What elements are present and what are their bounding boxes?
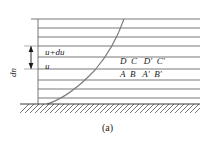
point-label-B: B — [130, 70, 136, 79]
element-points-lower-row: A B A' B' — [120, 70, 162, 79]
velocity-upper-label: u+du — [45, 48, 65, 57]
point-label-C: C — [131, 57, 137, 66]
figure-container: dn u+du u D C D' C' A B A' B' (a) — [0, 0, 215, 142]
velocity-profile-diagram — [0, 0, 215, 142]
point-label-B-prime: B' — [154, 70, 161, 79]
point-label-D: D — [120, 57, 127, 66]
fluid-layer-lines — [31, 19, 200, 98]
point-label-C-prime: C' — [157, 57, 165, 66]
dn-thickness-label: dn — [9, 68, 18, 77]
point-label-A: A — [120, 70, 126, 79]
element-points-upper-row: D C D' C' — [120, 57, 165, 66]
point-label-A-prime: A' — [142, 70, 149, 79]
velocity-curve — [47, 19, 124, 104]
point-label-D-prime: D' — [144, 57, 152, 66]
figure-caption: (a) — [0, 122, 215, 133]
dn-dimension-arrow — [24, 46, 38, 69]
velocity-lower-label: u — [45, 62, 50, 71]
ground-hatching — [20, 104, 200, 113]
